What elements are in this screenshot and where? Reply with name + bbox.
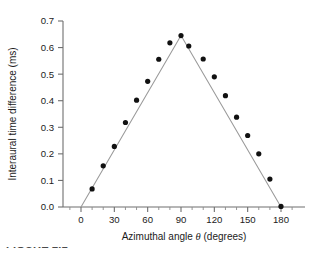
data-point: [112, 144, 117, 149]
x-axis-label: Azimuthal angle θ (degrees): [122, 231, 247, 242]
y-tick-label: 0.7: [41, 15, 54, 26]
y-tick-label: 0.4: [41, 95, 55, 106]
data-point: [156, 57, 161, 62]
figure-caption-clipped: FIGURE 2.1: [6, 247, 156, 254]
data-point: [278, 204, 283, 209]
y-tick-label: 0.1: [41, 175, 54, 186]
data-point: [145, 79, 150, 84]
data-point: [134, 98, 139, 103]
data-point: [256, 151, 261, 156]
x-tick-label: 90: [176, 214, 187, 225]
x-tick-label: 120: [206, 214, 222, 225]
data-point: [212, 74, 217, 79]
y-tick-label: 0.0: [41, 201, 54, 212]
x-tick-label: 180: [273, 214, 289, 225]
x-axis-label-suffix: (degrees): [201, 231, 247, 242]
y-tick-label: 0.2: [41, 148, 54, 159]
data-point: [201, 56, 206, 61]
data-point: [178, 33, 183, 38]
data-point: [167, 40, 172, 45]
data-point: [90, 186, 95, 191]
x-tick-label: 0: [78, 214, 83, 225]
figure-container: 0.00.10.20.30.40.50.60.7 030609012015018…: [0, 0, 319, 254]
data-point: [123, 120, 128, 125]
y-tick-label: 0.5: [41, 69, 54, 80]
figure-caption-text: FIGURE 2.1: [6, 247, 68, 250]
data-point: [245, 133, 250, 138]
x-axis-label-prefix: Azimuthal angle: [122, 231, 196, 242]
data-point: [186, 43, 191, 48]
data-point: [267, 177, 272, 182]
x-tick-label: 30: [109, 214, 120, 225]
y-axis-label: Interaural time difference (ms): [7, 47, 18, 180]
chart-canvas: 0.00.10.20.30.40.50.60.7 030609012015018…: [0, 0, 319, 254]
y-tick-label: 0.6: [41, 42, 54, 53]
x-tick-label: 60: [142, 214, 153, 225]
y-tick-label: 0.3: [41, 122, 54, 133]
data-point: [234, 115, 239, 120]
x-tick-label: 150: [240, 214, 256, 225]
data-point: [223, 93, 228, 98]
data-point: [101, 163, 106, 168]
